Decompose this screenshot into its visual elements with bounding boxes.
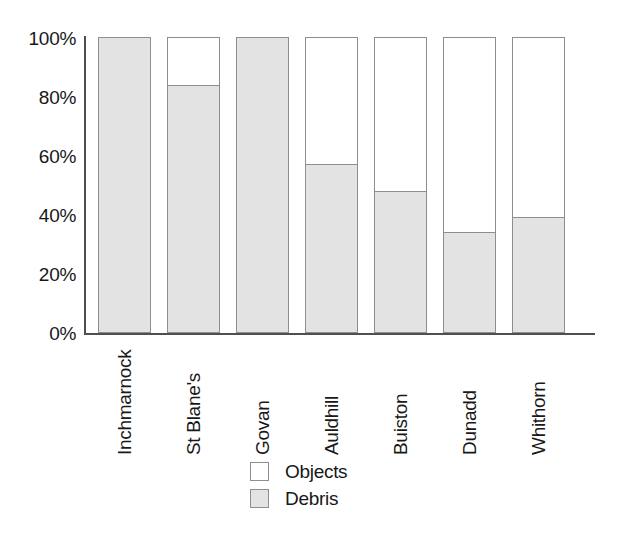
stacked-bar-chart: 100% 80% 60% 40% 20% 0% [0,0,622,537]
y-tick-label-40: 40% [14,206,76,225]
x-tick-slot-govan: Govan [251,337,273,455]
x-tick-label-inchmarnock: Inchmarnock [115,350,134,455]
bar-group-dunadd[interactable] [443,37,496,333]
y-axis-tick-labels: 100% 80% 60% 40% 20% 0% [14,0,76,537]
bar-stack-govan [236,37,289,333]
bar-stack-inchmarnock [98,37,151,333]
bar-segment-debris-st-blanes [168,85,219,332]
legend-swatch-objects-icon [250,462,269,481]
bar-segment-debris-inchmarnock [99,38,150,332]
x-tick-slot-buiston: Buiston [389,337,411,455]
x-tick-label-buiston: Buiston [391,394,410,455]
bar-group-govan[interactable] [236,37,289,333]
x-tick-slot-dunadd: Dunadd [458,337,480,455]
bar-group-buiston[interactable] [374,37,427,333]
bar-group-whithorn[interactable] [512,37,565,333]
bar-group-st-blanes[interactable] [167,37,220,333]
y-tick-label-80: 80% [14,88,76,107]
bar-segment-debris-buiston [375,191,426,332]
bar-segment-debris-govan [237,38,288,332]
bar-stack-dunadd [443,37,496,333]
bar-stack-buiston [374,37,427,333]
x-tick-slot-whithorn: Whithorn [527,337,549,455]
y-tick-label-0: 0% [14,324,76,343]
legend-row-objects[interactable]: Objects [250,458,450,485]
y-tick-label-100: 100% [14,29,76,48]
x-tick-slot-st-blanes: St Blane's [182,337,204,455]
y-tick-label-20: 20% [14,265,76,284]
legend-label-objects: Objects [285,462,347,481]
bar-stack-auldhill [305,37,358,333]
x-axis-tick-labels: Inchmarnock St Blane's Govan Auldhill Bu… [86,337,595,457]
x-axis-line [84,333,595,335]
x-tick-slot-auldhill: Auldhill [320,337,342,455]
x-tick-label-whithorn: Whithorn [529,381,548,455]
bar-segment-debris-whithorn [513,217,564,332]
bar-segment-debris-auldhill [306,164,357,332]
legend-row-debris[interactable]: Debris [250,485,450,512]
y-tick-label-60: 60% [14,147,76,166]
legend-label-debris: Debris [285,489,338,508]
bar-segment-debris-dunadd [444,232,495,332]
legend-swatch-debris-icon [250,489,269,508]
chart-legend: Objects Debris [250,458,450,512]
x-tick-label-govan: Govan [253,401,272,455]
x-tick-label-st-blanes: St Blane's [184,373,203,455]
plot-area [86,37,595,333]
x-tick-label-auldhill: Auldhill [322,396,341,455]
bar-stack-whithorn [512,37,565,333]
x-tick-label-dunadd: Dunadd [460,390,479,455]
bar-group-inchmarnock[interactable] [98,37,151,333]
x-tick-slot-inchmarnock: Inchmarnock [113,337,135,455]
bar-group-auldhill[interactable] [305,37,358,333]
bar-stack-st-blanes [167,37,220,333]
